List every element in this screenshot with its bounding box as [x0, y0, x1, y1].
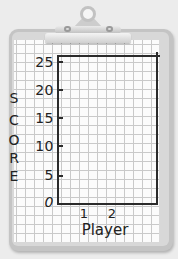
- x-tick-label: 2: [105, 207, 119, 221]
- y-axis-title-letter: E: [7, 169, 21, 183]
- y-axis-title-letter: R: [7, 151, 21, 165]
- y-axis-title-letter: C: [7, 113, 21, 127]
- x-axis-title: Player: [70, 222, 140, 238]
- clip-ring-icon: [80, 6, 96, 22]
- y-tick-label: 0: [20, 195, 54, 209]
- y-tick-label: 25: [20, 55, 54, 69]
- y-tick-25: [57, 61, 63, 63]
- y-tick-label: 15: [20, 111, 54, 125]
- y-tick-5: [57, 175, 63, 177]
- chart-frame-right: [156, 52, 158, 204]
- y-tick-20: [57, 89, 63, 91]
- y-tick-label: 10: [20, 139, 54, 153]
- y-axis-title-letter: O: [7, 133, 21, 147]
- clip-plate: [45, 33, 131, 43]
- y-tick-label: 5: [20, 168, 54, 182]
- clip-hook-right-icon: [106, 26, 113, 32]
- y-axis: [57, 55, 59, 204]
- x-tick-label: 1: [77, 207, 91, 221]
- x-axis: [57, 203, 158, 205]
- y-axis-title-letter: S: [7, 91, 21, 105]
- y-tick-label: 20: [20, 83, 54, 97]
- y-tick-10: [57, 145, 63, 147]
- y-tick-15: [57, 117, 63, 119]
- chart-frame-top: [57, 55, 160, 57]
- clip-hook-left-icon: [64, 26, 71, 32]
